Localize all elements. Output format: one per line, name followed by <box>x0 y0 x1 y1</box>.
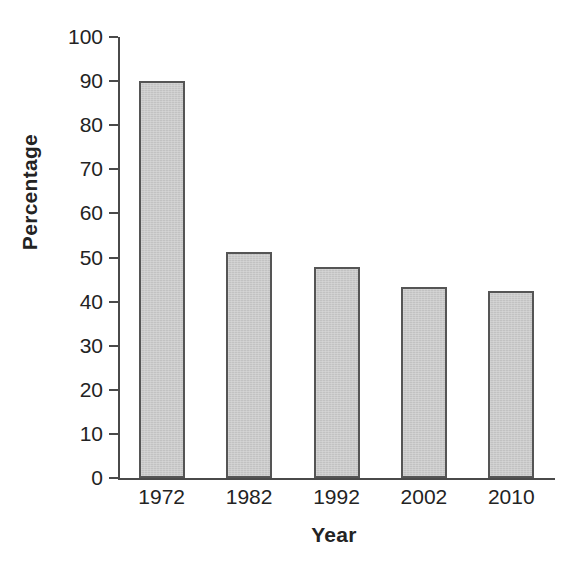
y-tick: 70 <box>109 168 118 170</box>
y-tick-label: 50 <box>80 246 103 270</box>
plot-area: 0102030405060708090100 19721982199220022… <box>118 37 555 478</box>
bar <box>401 287 447 478</box>
x-tick-label: 1982 <box>226 485 273 509</box>
bar <box>314 267 360 478</box>
y-tick: 50 <box>109 257 118 259</box>
y-tick-label: 80 <box>80 113 103 137</box>
bar <box>139 81 185 478</box>
y-tick: 40 <box>109 301 118 303</box>
bar-texture <box>403 289 445 476</box>
y-axis-line <box>118 37 120 478</box>
x-tick-label: 2002 <box>401 485 448 509</box>
x-axis-line <box>118 478 555 480</box>
y-tick-label: 40 <box>80 290 103 314</box>
y-tick-label: 100 <box>68 25 103 49</box>
y-tick: 0 <box>109 477 118 479</box>
bar <box>226 252 272 478</box>
x-axis-title: Year <box>118 523 550 547</box>
bar-texture <box>228 254 270 476</box>
y-tick-label: 30 <box>80 334 103 358</box>
bar <box>488 291 534 478</box>
y-tick: 60 <box>109 212 118 214</box>
y-tick-label: 0 <box>91 466 103 490</box>
y-tick: 90 <box>109 80 118 82</box>
y-tick: 10 <box>109 433 118 435</box>
bar-texture <box>316 269 358 476</box>
y-axis-title: Percentage <box>18 102 42 282</box>
y-tick: 20 <box>109 389 118 391</box>
y-tick: 30 <box>109 345 118 347</box>
y-tick-label: 90 <box>80 69 103 93</box>
y-tick: 100 <box>109 36 118 38</box>
bar-chart-figure: Percentage 0102030405060708090100 197219… <box>0 0 585 572</box>
bar-texture <box>141 83 183 476</box>
y-tick-label: 70 <box>80 157 103 181</box>
y-tick: 80 <box>109 124 118 126</box>
x-tick-label: 1992 <box>313 485 360 509</box>
x-tick-label: 1972 <box>138 485 185 509</box>
y-tick-label: 60 <box>80 201 103 225</box>
y-tick-label: 20 <box>80 378 103 402</box>
y-tick-label: 10 <box>80 422 103 446</box>
bar-texture <box>490 293 532 476</box>
x-tick-label: 2010 <box>488 485 535 509</box>
